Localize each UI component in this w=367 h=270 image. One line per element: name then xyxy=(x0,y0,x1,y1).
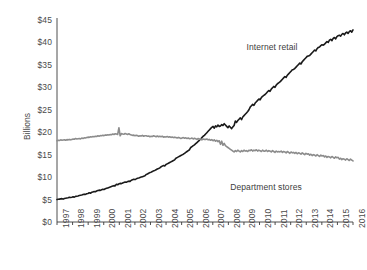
x-tick-label: 2004 xyxy=(170,209,180,228)
x-tick-label: 2016 xyxy=(357,209,367,228)
x-tick-label: 2002 xyxy=(138,209,148,228)
series-label: Internet retail xyxy=(246,42,297,52)
x-tick-label: 2008 xyxy=(232,209,242,228)
x-tick-label: 2011 xyxy=(279,209,289,228)
y-tick-label: $40 xyxy=(26,37,52,47)
series-line xyxy=(57,30,353,200)
y-tick-label: $10 xyxy=(26,172,52,182)
y-tick-label: $15 xyxy=(26,150,52,160)
x-tick-label: 2013 xyxy=(310,209,320,228)
x-tick-label: 2015 xyxy=(341,209,351,228)
x-tick-label: 2000 xyxy=(107,209,117,228)
x-tick-label: 2001 xyxy=(123,209,133,228)
y-tick-label: $20 xyxy=(26,127,52,137)
series-lines xyxy=(57,30,353,200)
x-tick-label: 2003 xyxy=(154,209,164,228)
y-tick-label: $25 xyxy=(26,105,52,115)
y-tick-label: $5 xyxy=(26,195,52,205)
x-tick-label: 2014 xyxy=(325,209,335,228)
y-tick-label: $0 xyxy=(26,217,52,227)
y-tick-label: $35 xyxy=(26,60,52,70)
axes xyxy=(57,18,353,225)
series-line xyxy=(57,128,353,161)
x-tick-label: 1999 xyxy=(92,209,102,228)
series-label: Department stores xyxy=(230,182,302,192)
x-tick-label: 2009 xyxy=(247,209,257,228)
x-tick-label: 1997 xyxy=(61,209,71,228)
y-tick-label: $45 xyxy=(26,15,52,25)
x-tick-label: 1998 xyxy=(76,209,86,228)
x-tick-label: 2005 xyxy=(185,209,195,228)
x-tick-label: 2012 xyxy=(294,209,304,228)
x-tick-label: 2006 xyxy=(201,209,211,228)
x-tick-label: 2007 xyxy=(216,209,226,228)
y-tick-label: $30 xyxy=(26,82,52,92)
x-tick-label: 2010 xyxy=(263,209,273,228)
